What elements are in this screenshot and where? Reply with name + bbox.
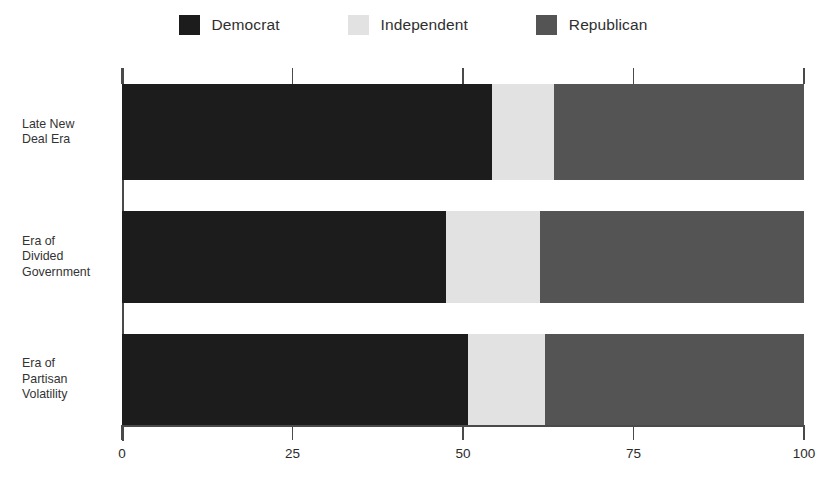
- x-tick-label-75: 75: [626, 446, 641, 461]
- legend-label-republican: Republican: [569, 16, 648, 34]
- x-tick-top-100: [803, 68, 805, 84]
- x-tick-top-75: [633, 68, 635, 84]
- bar-segment-independent[interactable]: [468, 334, 544, 425]
- legend-item-republican[interactable]: Republican: [536, 15, 648, 35]
- stacked-bar-chart: Democrat Independent Republican 02550751…: [0, 0, 826, 489]
- legend-label-independent: Independent: [381, 16, 468, 34]
- chart-legend: Democrat Independent Republican: [0, 10, 826, 40]
- legend-swatch-independent: [348, 15, 369, 35]
- x-tick-top-0: [121, 68, 123, 84]
- plot-area: [122, 84, 804, 425]
- bar-segment-republican[interactable]: [540, 211, 804, 303]
- x-tick-label-50: 50: [455, 446, 470, 461]
- category-label-2: Era of Divided Government: [22, 234, 118, 280]
- x-tick-50: [462, 425, 464, 440]
- bar-segment-republican[interactable]: [554, 84, 804, 180]
- x-tick-top-50: [462, 68, 464, 84]
- x-tick-top-25: [292, 68, 294, 84]
- bar-segment-independent[interactable]: [446, 211, 540, 303]
- x-tick-100: [803, 425, 805, 440]
- category-label-1: Late New Deal Era: [22, 117, 118, 148]
- x-tick-label-0: 0: [118, 446, 126, 461]
- category-label-3: Era of Partisan Volatility: [22, 356, 118, 402]
- legend-swatch-republican: [536, 15, 557, 35]
- legend-item-independent[interactable]: Independent: [348, 15, 468, 35]
- bar-segment-democrat[interactable]: [122, 334, 468, 425]
- bar-row: [122, 84, 804, 180]
- legend-swatch-democrat: [179, 15, 200, 35]
- bar-segment-republican[interactable]: [545, 334, 804, 425]
- x-tick-75: [633, 425, 635, 440]
- bar-segment-democrat[interactable]: [122, 84, 492, 180]
- x-tick-label-100: 100: [793, 446, 816, 461]
- x-tick-0: [121, 425, 123, 440]
- x-tick-25: [292, 425, 294, 440]
- bar-segment-democrat[interactable]: [122, 211, 446, 303]
- bar-segment-independent[interactable]: [492, 84, 553, 180]
- legend-item-democrat[interactable]: Democrat: [179, 15, 280, 35]
- legend-label-democrat: Democrat: [212, 16, 280, 34]
- x-tick-label-25: 25: [285, 446, 300, 461]
- bar-row: [122, 334, 804, 425]
- bar-row: [122, 211, 804, 303]
